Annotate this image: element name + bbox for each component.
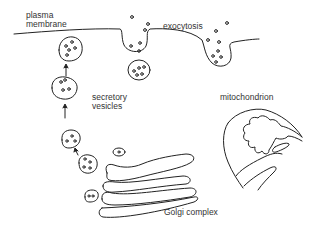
pit-granules bbox=[130, 42, 223, 64]
arrow-head-2 bbox=[63, 104, 67, 108]
secretory-vesicle-top bbox=[59, 37, 82, 61]
secretion-diagram: plasma membrane exocytosis secretory ves… bbox=[0, 0, 312, 233]
arrow-head-1 bbox=[64, 64, 68, 68]
arrow-head-3 bbox=[74, 148, 78, 152]
secretory-vesicle-lower bbox=[62, 130, 80, 148]
diagram-drawing bbox=[0, 0, 312, 233]
mitochondrion-label: mitochondrion bbox=[220, 93, 273, 102]
fusing-vesicle bbox=[128, 60, 150, 80]
plasma-membrane-label-line2: membrane bbox=[26, 20, 67, 29]
secretory-vesicle-forming bbox=[79, 155, 97, 173]
golgi-complex-label: Golgi complex bbox=[164, 208, 218, 217]
exocytosis-label: exocytosis bbox=[163, 22, 203, 31]
secretory-vesicles-label-line2: vesicles bbox=[92, 102, 122, 111]
secretory-vesicle-middle bbox=[52, 77, 77, 99]
mitochondrion bbox=[224, 109, 303, 190]
small-vesicle bbox=[113, 148, 125, 156]
small-vesicle-bottom bbox=[85, 190, 98, 202]
